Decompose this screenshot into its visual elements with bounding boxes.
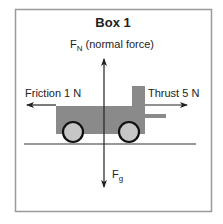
free-body-diagram: Box 1 FN (normal force) Friction 1 N Thr… <box>0 0 223 224</box>
box-title: Box 1 <box>95 15 130 30</box>
thrust-label: Thrust 5 N <box>148 87 199 99</box>
friction-label: Friction 1 N <box>25 87 81 99</box>
wheel-right-icon <box>119 122 139 142</box>
wheel-left-icon <box>63 122 83 142</box>
cart-handle <box>145 114 166 118</box>
cart-cab <box>132 86 145 108</box>
